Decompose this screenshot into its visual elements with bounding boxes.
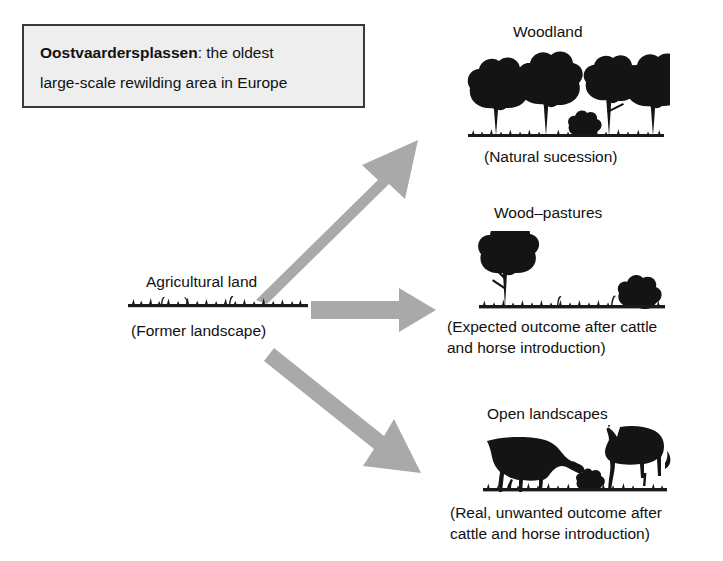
- outcome-open-landscapes-caption-line-1: (Real, unwanted outcome after: [450, 502, 662, 523]
- outcome-open-landscapes-caption-line-2: cattle and horse introduction): [450, 523, 662, 544]
- outcome-open-landscapes-caption: (Real, unwanted outcome after cattle and…: [450, 502, 662, 544]
- source-node-caption-line-1: (Former landscape): [131, 320, 266, 341]
- woodland-trees-icon: [462, 44, 670, 142]
- cow-and-horse-icon: [481, 425, 671, 497]
- arrow-agricultural-to-wood-pastures: [311, 288, 436, 332]
- outcome-woodland-caption-line-1: (Natural sucession): [484, 146, 618, 167]
- grass-strip-icon: [128, 296, 310, 310]
- outcome-woodland-caption: (Natural sucession): [484, 146, 618, 167]
- arrow-agricultural-to-open-landscapes: [264, 348, 421, 473]
- outcome-woodland-title: Woodland: [513, 22, 583, 41]
- source-node-title: Agricultural land: [146, 272, 257, 291]
- outcome-wood-pastures-caption-line-2: and horse introduction): [447, 337, 657, 358]
- outcome-open-landscapes-title: Open landscapes: [487, 404, 608, 423]
- arrow-agricultural-to-woodland: [256, 140, 418, 304]
- callout-line-1-rest: : the oldest: [198, 44, 274, 61]
- outcome-wood-pastures-caption-line-1: (Expected outcome after cattle: [447, 316, 657, 337]
- wood-pasture-tree-shrub-icon: [471, 231, 671, 313]
- callout-box: Oostvaardersplassen: the oldest large-sc…: [22, 24, 365, 108]
- callout-line-1: Oostvaardersplassen: the oldest: [40, 38, 347, 68]
- callout-site-name: Oostvaardersplassen: [40, 44, 198, 61]
- source-node-caption: (Former landscape): [131, 320, 266, 341]
- outcome-wood-pastures-title: Wood–pastures: [494, 203, 602, 222]
- outcome-wood-pastures-caption: (Expected outcome after cattle and horse…: [447, 316, 657, 358]
- callout-line-2: large-scale rewilding area in Europe: [40, 68, 347, 98]
- rewilding-outcomes-diagram: Oostvaardersplassen: the oldest large-sc…: [0, 0, 723, 561]
